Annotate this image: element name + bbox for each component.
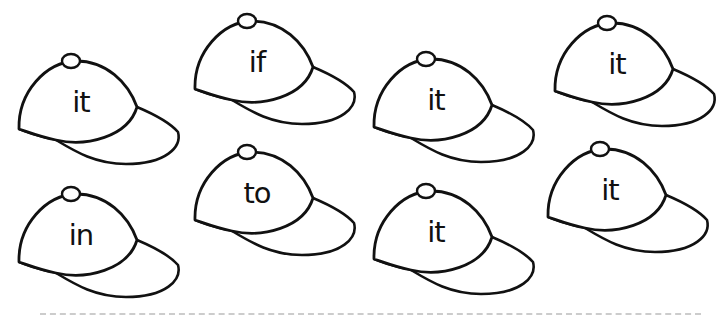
baseball-cap-5: in [16, 185, 186, 305]
worksheet-page: it if it it [0, 0, 721, 316]
cap-word: it [371, 215, 501, 249]
cap-word: in [16, 218, 146, 252]
cap-word: it [552, 47, 682, 81]
baseball-cap-4: it [552, 14, 721, 134]
cap-word: it [371, 83, 501, 117]
baseball-cap-8: it [545, 140, 715, 260]
cap-word: to [192, 176, 322, 210]
cap-word: it [16, 85, 146, 119]
baseball-cap-6: to [192, 143, 362, 263]
baseball-cap-1: it [16, 52, 186, 172]
baseball-cap-7: it [371, 182, 541, 302]
dashed-cut-line [40, 313, 701, 315]
cap-word: if [192, 45, 322, 79]
baseball-cap-2: if [192, 12, 362, 132]
cap-word: it [545, 173, 675, 207]
baseball-cap-3: it [371, 50, 541, 170]
